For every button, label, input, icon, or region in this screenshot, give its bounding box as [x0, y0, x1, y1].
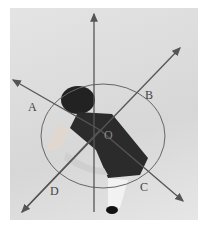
label-b: B — [145, 88, 153, 103]
diagram-overlay — [0, 0, 205, 232]
label-a: A — [28, 100, 37, 115]
label-d: D — [50, 184, 59, 199]
label-o: O — [104, 128, 113, 143]
person-figure — [46, 86, 148, 214]
label-c: C — [140, 180, 148, 195]
